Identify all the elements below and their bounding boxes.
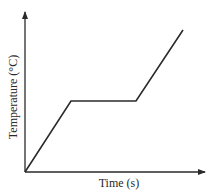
y-axis-label: Temperature (°C) [6, 55, 20, 139]
chart: Time (s) Temperature (°C) [0, 0, 211, 192]
x-axis-label: Time (s) [99, 176, 140, 190]
heating-curve-line [25, 30, 183, 172]
